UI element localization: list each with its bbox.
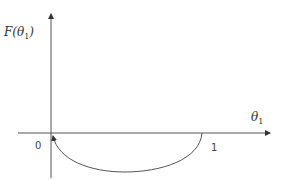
function-curve (53, 133, 202, 172)
x-axis-label: θ1 (251, 111, 263, 126)
origin-label: 0 (35, 141, 41, 151)
axes-and-curve (0, 0, 283, 180)
y-axis-label: F(θ1) (4, 26, 34, 41)
x-tick-label-1: 1 (211, 143, 217, 153)
diagram-canvas: F(θ1) θ1 0 1 (0, 0, 283, 180)
